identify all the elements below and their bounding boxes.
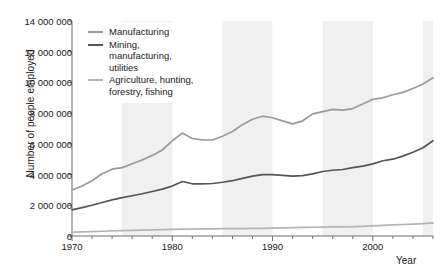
- legend-swatch-mining: [88, 44, 103, 46]
- y-tick-label: 2 000 000: [0, 200, 72, 211]
- y-tick-label: 10 000 000: [0, 77, 72, 88]
- x-tick-label: 1980: [162, 241, 183, 252]
- x-tick-label: 1990: [262, 241, 283, 252]
- y-tick-label: 0: [0, 231, 72, 242]
- legend-label: Agriculture, hunting, forestry, fishing: [109, 74, 194, 97]
- legend-swatch-manufacturing: [88, 31, 103, 33]
- legend-label: Mining, manufacturing, utilities: [109, 39, 172, 74]
- y-axis-tick-labels: 02 000 0004 000 0006 000 0008 000 00010 …: [0, 0, 72, 274]
- chart-legend: Manufacturing Mining, manufacturing, uti…: [84, 22, 200, 103]
- legend-item: Mining, manufacturing, utilities: [88, 39, 194, 74]
- chart-container: Number of people employed Year 02 000 00…: [0, 0, 445, 274]
- y-tick-label: 8 000 000: [0, 108, 72, 119]
- legend-label: Manufacturing: [109, 26, 169, 38]
- legend-swatch-agriculture: [88, 79, 103, 81]
- y-tick-label: 14 000 000: [0, 16, 72, 27]
- x-axis-title: Year: [396, 255, 416, 266]
- legend-item: Agriculture, hunting, forestry, fishing: [88, 74, 194, 97]
- x-tick-label: 2000: [362, 241, 383, 252]
- y-tick-label: 6 000 000: [0, 138, 72, 149]
- y-tick-label: 4 000 000: [0, 169, 72, 180]
- y-tick-label: 12 000 000: [0, 46, 72, 57]
- x-tick-label: 1970: [61, 241, 82, 252]
- legend-item: Manufacturing: [88, 26, 194, 38]
